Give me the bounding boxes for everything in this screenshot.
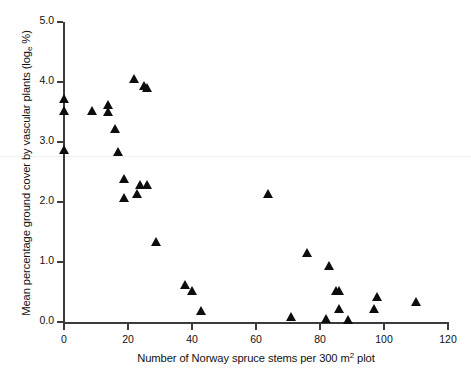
x-axis-title-before: Number of Norway spruce stems per 300 m	[137, 352, 349, 364]
y-tick-4.0: 4.0	[57, 81, 63, 82]
data-point	[187, 286, 197, 295]
data-point	[302, 248, 312, 257]
y-axis-title: Mean percentage ground cover by vascular…	[20, 8, 38, 338]
x-tick-60: 60	[255, 324, 256, 330]
x-tick-120: 120	[447, 324, 448, 330]
x-tick-40: 40	[191, 324, 192, 330]
data-point	[129, 74, 139, 83]
data-point	[369, 304, 379, 313]
x-tick-label-100: 100	[375, 333, 393, 345]
data-point	[324, 261, 334, 270]
data-point	[151, 237, 161, 246]
data-point	[142, 83, 152, 92]
y-tick-label-2.0: 2.0	[39, 194, 54, 206]
y-axis-title-after: %)	[20, 30, 32, 46]
data-point	[119, 193, 129, 202]
data-point	[87, 106, 97, 115]
y-tick-label-3.0: 3.0	[39, 134, 54, 146]
data-point	[142, 180, 152, 189]
x-tick-label-120: 120	[439, 333, 457, 345]
data-point	[334, 286, 344, 295]
y-axis-title-before: Mean percentage ground cover by vascular…	[20, 51, 32, 316]
data-point	[132, 189, 142, 198]
data-point	[196, 306, 206, 315]
x-tick-label-60: 60	[250, 333, 262, 345]
data-point	[343, 315, 353, 324]
x-axis-title-after: plot	[354, 352, 375, 364]
plot-area	[64, 22, 448, 323]
x-tick-label-0: 0	[61, 333, 67, 345]
y-tick-label-1.0: 1.0	[39, 254, 54, 266]
y-tick-0.0: 0.0	[57, 321, 63, 322]
y-tick-1.0: 1.0	[57, 261, 63, 262]
data-point	[59, 145, 69, 154]
data-point	[113, 147, 123, 156]
scatter-plot-figure: Mean percentage ground cover by vascular…	[0, 0, 471, 376]
x-tick-label-80: 80	[314, 333, 326, 345]
y-tick-label-4.0: 4.0	[39, 74, 54, 86]
data-point	[59, 106, 69, 115]
y-tick-3.0: 3.0	[57, 141, 63, 142]
data-point	[286, 312, 296, 321]
x-axis-title: Number of Norway spruce stems per 300 m2…	[64, 351, 448, 364]
x-tick-20: 20	[127, 324, 128, 330]
y-tick-label-5.0: 5.0	[39, 14, 54, 26]
data-point	[411, 297, 421, 306]
data-point	[321, 314, 331, 323]
data-point	[119, 174, 129, 183]
y-tick-label-0.0: 0.0	[39, 314, 54, 326]
data-point	[110, 124, 120, 133]
y-tick-5.0: 5.0	[57, 21, 63, 22]
y-axis-title-subscript: e	[25, 47, 34, 51]
y-tick-2.0: 2.0	[57, 201, 63, 202]
data-point	[103, 107, 113, 116]
x-tick-80: 80	[319, 324, 320, 330]
x-tick-label-20: 20	[122, 333, 134, 345]
data-point	[59, 94, 69, 103]
data-point	[334, 304, 344, 313]
x-tick-100: 100	[383, 324, 384, 330]
x-tick-0: 0	[63, 324, 64, 330]
x-tick-label-40: 40	[186, 333, 198, 345]
data-point	[263, 189, 273, 198]
data-point	[372, 292, 382, 301]
